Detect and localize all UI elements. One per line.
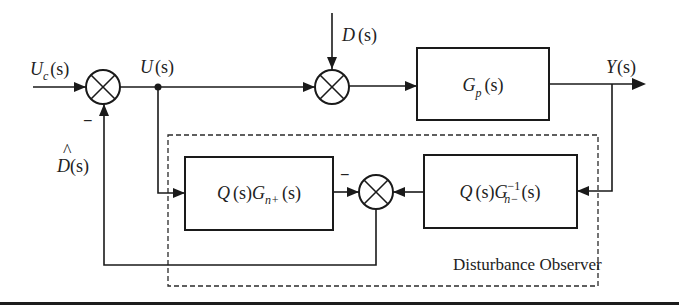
arrow-head-icon bbox=[577, 186, 589, 196]
minus-sign: − bbox=[83, 112, 92, 129]
inverse-model-label: Q(s)G−1n−(s) bbox=[460, 179, 541, 206]
summing-junction-2 bbox=[315, 70, 349, 104]
control-branch-line bbox=[158, 87, 185, 193]
arrow-head-icon bbox=[327, 57, 337, 69]
summing-junction-3 bbox=[359, 175, 393, 209]
arrow-head-icon bbox=[347, 187, 359, 197]
arrow-head-icon bbox=[405, 81, 417, 91]
arrow-head-icon bbox=[393, 187, 405, 197]
plant-block bbox=[417, 48, 549, 120]
arrow-head-icon bbox=[74, 82, 86, 92]
disturbance-signal-label: D(s) bbox=[341, 25, 377, 46]
hat-accent: ^ bbox=[63, 141, 72, 161]
reference-signal-label: Uc(s) bbox=[30, 59, 69, 83]
disturbance-observer-label: Disturbance Observer bbox=[453, 255, 602, 274]
arrow-head-icon bbox=[99, 104, 109, 116]
summing-junction-1 bbox=[86, 70, 120, 104]
estimated-disturbance-label: D(s) bbox=[56, 156, 89, 177]
arrow-head-icon bbox=[632, 78, 646, 90]
arrow-head-icon bbox=[303, 82, 315, 92]
arrow-head-icon bbox=[173, 188, 185, 198]
block-diagram: Gp(s) Q(s)G−1n−(s) Q(s)Gn+(s) − − Uc(s) … bbox=[0, 0, 679, 305]
control-signal-label: U(s) bbox=[140, 57, 174, 78]
output-signal-label: Y(s) bbox=[606, 57, 636, 78]
minus-sign: − bbox=[340, 166, 349, 183]
output-feedback-line bbox=[577, 84, 612, 191]
